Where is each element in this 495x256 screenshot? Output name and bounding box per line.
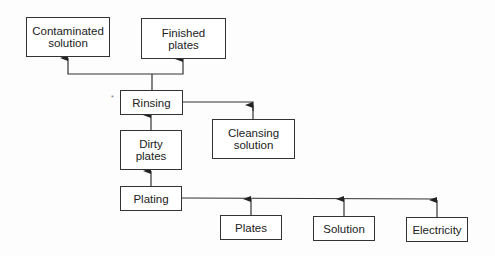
- node-cleansing-solution: Cleansing solution: [212, 119, 295, 159]
- node-contaminated-solution: Contaminated solution: [26, 17, 110, 57]
- node-rinsing: Rinsing: [120, 90, 183, 115]
- node-plating: Plating: [120, 186, 182, 211]
- node-electricity: Electricity: [406, 217, 468, 242]
- node-plates: Plates: [220, 215, 282, 240]
- node-solution: Solution: [313, 216, 375, 241]
- node-dirty-plates: Dirty plates: [120, 130, 182, 170]
- stray-mark: *: [111, 94, 114, 101]
- flow-diagram: * Contaminated solution Finished plates …: [0, 0, 495, 256]
- node-finished-plates: Finished plates: [141, 18, 226, 59]
